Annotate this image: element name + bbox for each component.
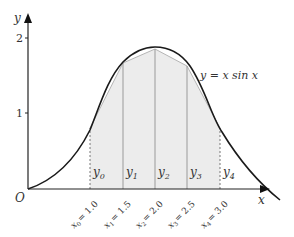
y-tick-label-1: 1 bbox=[16, 107, 23, 120]
x-label-x0: x0= 1.0 bbox=[68, 199, 100, 231]
trapezium-diagram: 2 1 y x O y = x sin x y0 y1 y2 y3 y4 x0=… bbox=[0, 0, 294, 237]
ordinate-label-y4: y4 bbox=[222, 165, 235, 181]
y-tick-label-2: 2 bbox=[16, 32, 23, 45]
x-label-x2: x2= 2.0 bbox=[133, 199, 165, 231]
x-label-x1: x1= 1.5 bbox=[101, 199, 133, 231]
origin-label: O bbox=[15, 191, 25, 205]
y-axis-arrow-icon bbox=[24, 13, 32, 23]
x-label-x4: x4= 3.0 bbox=[198, 199, 230, 231]
curve-label: y = x sin x bbox=[199, 69, 259, 82]
y-axis-label: y bbox=[13, 11, 21, 25]
x-axis-label: x bbox=[258, 193, 265, 207]
x-label-x3: x3= 2.5 bbox=[165, 199, 197, 231]
